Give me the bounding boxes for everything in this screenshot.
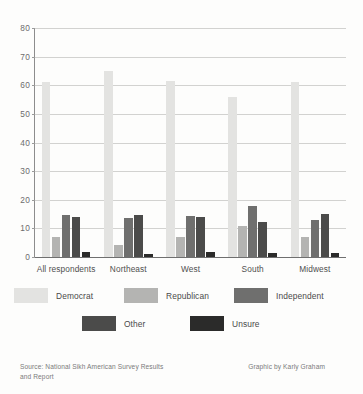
legend-label: Unsure — [232, 319, 260, 329]
legend-item: Other — [82, 316, 190, 331]
bar — [114, 245, 123, 257]
x-axis-tick-label: West — [181, 264, 200, 274]
x-axis-tick-label: Midwest — [299, 264, 330, 274]
bar — [206, 252, 215, 257]
bar — [331, 253, 340, 257]
bar-group: All respondents — [35, 28, 97, 257]
bar — [124, 218, 133, 258]
legend-swatch — [124, 288, 158, 303]
legend-item: Democrat — [14, 288, 124, 303]
y-axis-tick-label: 20 — [20, 195, 30, 205]
bar — [82, 252, 91, 257]
y-axis-tick-label: 10 — [20, 223, 30, 233]
x-axis-tick-label: All respondents — [37, 264, 96, 274]
plot-frame: 01020304050607080 All respondentsNorthea… — [34, 28, 346, 258]
legend-item: Republican — [124, 288, 234, 303]
legend-row-top: DemocratRepublicanIndependent — [14, 288, 350, 303]
bar — [238, 226, 247, 257]
y-axis-tick-label: 80 — [20, 23, 30, 33]
chart-figure: 01020304050607080 All respondentsNorthea… — [0, 0, 363, 394]
bar — [42, 82, 51, 257]
legend-label: Republican — [166, 291, 209, 301]
y-axis-tick-label: 30 — [20, 166, 30, 176]
legend-label: Other — [124, 319, 145, 329]
bar — [258, 222, 267, 257]
bar — [166, 81, 175, 257]
source-note: Source: National Sikh American Survey Re… — [20, 362, 170, 382]
legend-item: Unsure — [190, 316, 300, 331]
legend-label: Democrat — [56, 291, 93, 301]
bar — [311, 220, 320, 257]
bar — [248, 206, 257, 257]
bar — [72, 217, 81, 257]
chart-plot-area: 01020304050607080 All respondentsNorthea… — [34, 28, 346, 258]
legend-swatch — [234, 288, 268, 303]
y-axis-tick-label: 60 — [20, 80, 30, 90]
y-axis-tick-label: 50 — [20, 109, 30, 119]
bar — [52, 237, 61, 257]
credit-note: Graphic by Karly Graham — [248, 362, 325, 372]
bar — [62, 215, 71, 257]
bar-group: South — [222, 28, 284, 257]
chart-legend: DemocratRepublicanIndependent OtherUnsur… — [14, 288, 350, 331]
y-axis-tick-mark — [32, 257, 35, 258]
bar — [301, 237, 310, 257]
bar — [134, 215, 143, 257]
bar — [186, 216, 195, 257]
legend-label: Independent — [276, 291, 324, 301]
bar — [228, 97, 237, 257]
bar — [291, 82, 300, 257]
bar — [144, 254, 153, 257]
legend-row-bottom: OtherUnsure — [14, 316, 350, 331]
legend-swatch — [190, 316, 224, 331]
y-axis-tick-label: 0 — [25, 252, 30, 262]
x-axis-tick-label: Northeast — [110, 264, 147, 274]
legend-swatch — [14, 288, 48, 303]
bar — [268, 253, 277, 257]
legend-swatch — [82, 316, 116, 331]
bar-groups: All respondentsNortheastWestSouthMidwest — [35, 28, 346, 257]
bar — [196, 217, 205, 257]
x-axis-tick-label: South — [242, 264, 264, 274]
bar-group: Northeast — [97, 28, 159, 257]
chart-footer: Source: National Sikh American Survey Re… — [20, 362, 349, 382]
bar-group: West — [159, 28, 221, 257]
y-axis-tick-label: 40 — [20, 138, 30, 148]
bar — [104, 71, 113, 257]
y-axis-tick-label: 70 — [20, 52, 30, 62]
bar-group: Midwest — [284, 28, 346, 257]
bar — [321, 214, 330, 258]
bar — [176, 237, 185, 257]
legend-item: Independent — [234, 288, 350, 303]
